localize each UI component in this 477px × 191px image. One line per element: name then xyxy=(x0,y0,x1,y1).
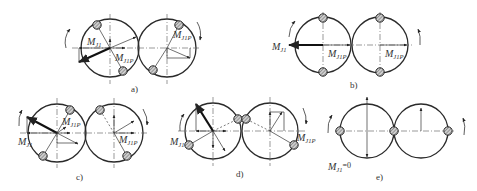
rotation-arrow-cw-icon xyxy=(143,109,147,125)
rotation-arrow-cw-icon xyxy=(197,22,201,40)
label-mj1p: MJ1P xyxy=(114,52,133,64)
resultant-moment-arrow xyxy=(196,104,213,131)
label-mj1p-right: MJ1P xyxy=(296,132,315,144)
counterweight-icon xyxy=(376,14,384,22)
label-mj1-zero: MJ1=0 xyxy=(327,161,351,173)
rotation-arrow-ccw-icon xyxy=(19,110,22,126)
panel-d: MJ1 MJ1P d) xyxy=(169,97,315,179)
counterweight-icon xyxy=(376,68,384,76)
panel-b: MJ1 MJ1P MJ1P b) xyxy=(271,12,420,90)
label-mj1: MJ1 xyxy=(169,136,184,148)
label-mj1: MJ1 xyxy=(17,136,32,148)
label-mj1: MJ1 xyxy=(271,41,286,53)
counterweight-icon xyxy=(234,115,242,123)
counterweight-icon xyxy=(119,67,127,75)
counterweight-icon xyxy=(123,152,131,160)
counterweight-icon xyxy=(319,68,327,76)
rotation-arrow-cw-icon xyxy=(463,118,465,135)
counterweight-icon xyxy=(336,127,344,135)
panel-c: MJ1 MJ1P MJ1P c) xyxy=(17,98,148,182)
caption-b: b) xyxy=(350,80,358,90)
balance-diagram-figure: MJ1 MJ1P MJ1P a) MJ1 MJ1P MJ1P b xyxy=(0,0,477,191)
rotation-arrow-ccw-icon xyxy=(65,29,70,48)
counterweight-icon xyxy=(444,127,452,135)
rotation-arrow-ccw-icon xyxy=(180,114,184,131)
rotation-arrow-cw-icon xyxy=(303,108,306,124)
rotation-arrow-ccw-icon xyxy=(328,115,332,133)
counterweight-icon xyxy=(39,152,47,160)
counterweight-icon xyxy=(185,141,193,149)
resultant-moment-arrow xyxy=(27,117,57,133)
caption-c: c) xyxy=(76,172,83,182)
caption-d: d) xyxy=(236,169,244,179)
label-mj1p-right: MJ1P xyxy=(172,29,191,41)
counterweight-icon xyxy=(93,21,101,29)
counterweight-icon xyxy=(175,21,183,29)
caption-e: e) xyxy=(376,172,383,182)
counterweight-icon xyxy=(66,106,74,114)
diagram-canvas: MJ1 MJ1P MJ1P a) MJ1 MJ1P MJ1P b xyxy=(0,0,477,191)
rotation-arrow-ccw-icon xyxy=(289,21,295,37)
counterweight-icon xyxy=(319,14,327,22)
label-mj1p-right: MJ1P xyxy=(118,134,137,146)
caption-a: a) xyxy=(131,84,138,94)
panel-a: MJ1 MJ1P MJ1P a) xyxy=(65,14,200,94)
counterweight-icon xyxy=(96,106,104,114)
counterweight-icon xyxy=(149,66,157,74)
rotation-arrow-cw-icon xyxy=(418,29,420,45)
counterweight-icon xyxy=(390,127,398,135)
panel-e: MJ1=0 e) xyxy=(327,97,465,182)
label-mj1p: MJ1P xyxy=(327,48,346,60)
label-mj1p-right: MJ1P xyxy=(384,48,403,60)
resultant-moment-arrow xyxy=(79,48,110,62)
label-mj1: MJ1 xyxy=(86,36,101,48)
label-mj1p: MJ1P xyxy=(61,116,80,128)
counterweight-icon xyxy=(242,115,250,123)
